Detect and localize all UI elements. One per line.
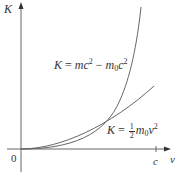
eq1-equals: = bbox=[65, 58, 72, 72]
y-axis-arrow-icon bbox=[19, 2, 24, 9]
kinetic-energy-diagram: K v 0 c K = mc2 − m0c2 K = 1 2 m0v2 bbox=[0, 0, 184, 185]
eq1-term2-m: m bbox=[106, 58, 115, 72]
eq1-term1: mc bbox=[75, 58, 89, 72]
eq2-fraction: 1 2 bbox=[129, 123, 135, 140]
x-axis-label: v bbox=[170, 154, 175, 165]
eq2-frac-den: 2 bbox=[130, 132, 134, 140]
y-axis-label: K bbox=[4, 3, 12, 15]
origin-label: 0 bbox=[11, 153, 17, 164]
relativistic-equation-label: K = mc2 − m0c2 bbox=[54, 58, 128, 73]
x-axis-arrow-icon bbox=[164, 147, 171, 152]
eq1-term2-exp: 2 bbox=[124, 57, 128, 66]
eq2-lhs: K bbox=[107, 123, 115, 137]
eq1-lhs: K bbox=[54, 58, 62, 72]
classical-equation-label: K = 1 2 m0v2 bbox=[107, 123, 158, 140]
eq1-minus: − bbox=[96, 58, 103, 72]
eq2-v-exp: 2 bbox=[154, 122, 158, 131]
x-tick-label-c: c bbox=[153, 156, 158, 167]
eq1-term1-exp: 2 bbox=[89, 57, 93, 66]
eq2-equals: = bbox=[118, 123, 125, 137]
